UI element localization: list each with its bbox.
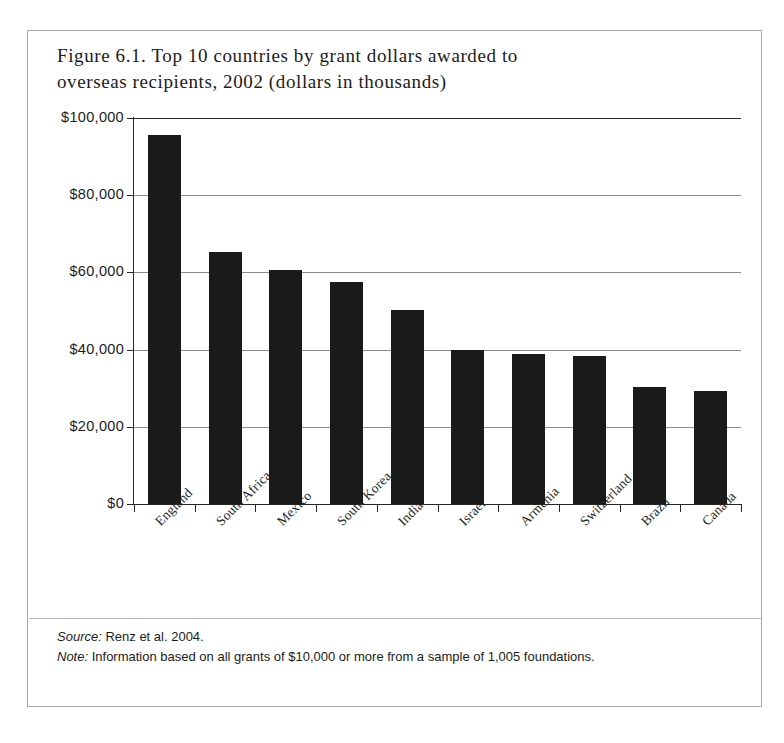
footer-divider bbox=[29, 618, 762, 619]
x-tick-mark-4 bbox=[377, 505, 378, 512]
y-tick-label-0: $0 bbox=[28, 495, 124, 511]
plot-area bbox=[134, 118, 741, 504]
bar-armenia bbox=[512, 354, 545, 504]
bar-israel bbox=[451, 350, 484, 504]
y-tick-mark-80000 bbox=[127, 195, 134, 196]
x-tick-mark-1 bbox=[195, 505, 196, 512]
x-tick-mark-8 bbox=[620, 505, 621, 512]
x-tick-mark-0 bbox=[134, 505, 135, 512]
source-label: Source: bbox=[57, 629, 102, 644]
bar-mexico bbox=[269, 270, 302, 504]
y-tick-mark-40000 bbox=[127, 350, 134, 351]
note-text: Information based on all grants of $10,0… bbox=[88, 649, 595, 664]
y-tick-mark-60000 bbox=[127, 272, 134, 273]
y-tick-label-20000: $20,000 bbox=[28, 418, 124, 434]
x-tick-mark-9 bbox=[680, 505, 681, 512]
note-label: Note: bbox=[57, 649, 88, 664]
bar-south-korea bbox=[330, 282, 363, 504]
figure-title: Figure 6.1. Top 10 countries by grant do… bbox=[57, 43, 697, 95]
figure-container: Figure 6.1. Top 10 countries by grant do… bbox=[27, 30, 762, 707]
figure-footnotes: Source: Renz et al. 2004. Note: Informat… bbox=[57, 627, 717, 667]
gridline-100000 bbox=[134, 118, 741, 119]
y-tick-mark-20000 bbox=[127, 427, 134, 428]
y-tick-label-100000: $100,000 bbox=[28, 109, 124, 125]
bar-canada bbox=[694, 391, 727, 504]
bar-england bbox=[148, 135, 181, 504]
source-text: Renz et al. 2004. bbox=[102, 629, 204, 644]
bar-switzerland bbox=[573, 356, 606, 504]
y-tick-label-60000: $60,000 bbox=[28, 263, 124, 279]
x-tick-mark-end bbox=[741, 505, 742, 512]
bar-india bbox=[391, 310, 424, 504]
y-tick-mark-100000 bbox=[127, 118, 134, 119]
x-tick-mark-5 bbox=[438, 505, 439, 512]
bar-brazil bbox=[633, 387, 666, 504]
bar-south-africa bbox=[209, 252, 242, 504]
x-tick-mark-3 bbox=[316, 505, 317, 512]
x-tick-mark-7 bbox=[559, 505, 560, 512]
note-line: Note: Information based on all grants of… bbox=[57, 647, 717, 666]
gridline-80000 bbox=[134, 195, 741, 196]
y-tick-label-40000: $40,000 bbox=[28, 341, 124, 357]
x-tick-mark-6 bbox=[498, 505, 499, 512]
y-tick-mark-0 bbox=[127, 504, 134, 505]
x-tick-mark-2 bbox=[255, 505, 256, 512]
source-line: Source: Renz et al. 2004. bbox=[57, 627, 717, 646]
y-tick-label-80000: $80,000 bbox=[28, 186, 124, 202]
